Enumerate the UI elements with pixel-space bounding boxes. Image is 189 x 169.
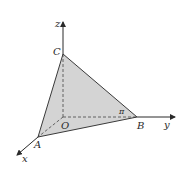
y-axis-label: y bbox=[163, 119, 170, 130]
point-C-label: C bbox=[53, 46, 61, 57]
z-axis-label: z bbox=[54, 18, 61, 29]
point-O-label: O bbox=[61, 120, 69, 131]
point-A-label: A bbox=[33, 139, 41, 150]
point-B-label: B bbox=[136, 120, 144, 131]
x-axis-label: x bbox=[22, 153, 28, 164]
angle-label: π bbox=[118, 107, 125, 116]
tetrahedron-diagram: z y x C O B A π bbox=[0, 0, 189, 169]
